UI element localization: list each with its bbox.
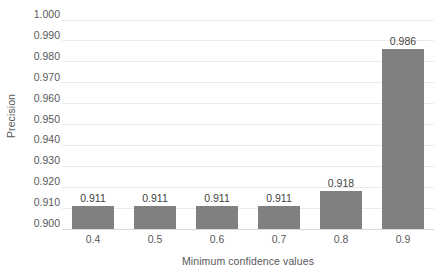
bar-value-label: 0.911 xyxy=(142,192,168,204)
y-axis-tick-label: 0.990 xyxy=(20,29,60,40)
y-axis-tick-label: 0.950 xyxy=(20,113,60,124)
bar[interactable]: 0.911 xyxy=(134,206,176,229)
bar-chart: Precision 1.0000.9900.9800.9700.9600.950… xyxy=(0,0,440,280)
y-axis-tick-label: 0.960 xyxy=(20,92,60,103)
bar-slot: 0.911 xyxy=(248,20,310,229)
y-axis-tick-label: 0.900 xyxy=(20,218,60,229)
x-axis-tick-label: 0.9 xyxy=(372,232,434,248)
y-axis-tick-label: 0.930 xyxy=(20,155,60,166)
y-axis-tick-label: 1.000 xyxy=(20,9,60,20)
bar[interactable]: 0.911 xyxy=(258,206,300,229)
axis-baseline xyxy=(62,229,434,230)
y-axis-tick-label: 0.910 xyxy=(20,197,60,208)
x-axis-tick-label: 0.8 xyxy=(310,232,372,248)
bar-slot: 0.918 xyxy=(310,20,372,229)
bar[interactable]: 0.911 xyxy=(72,206,114,229)
y-axis-title-label: Precision xyxy=(5,94,17,138)
y-axis-title: Precision xyxy=(0,0,22,232)
bar-value-label: 0.918 xyxy=(328,177,354,189)
y-axis-tick-label: 0.970 xyxy=(20,71,60,82)
bar-value-label: 0.911 xyxy=(204,192,230,204)
x-axis-title: Minimum confidence values xyxy=(62,255,434,267)
bar-slot: 0.986 xyxy=(372,20,434,229)
x-axis-tick-label: 0.7 xyxy=(248,232,310,248)
bar-value-label: 0.911 xyxy=(266,192,292,204)
bar[interactable]: 0.911 xyxy=(196,206,238,229)
bar-slot: 0.911 xyxy=(62,20,124,229)
bars-layer: 0.9110.9110.9110.9110.9180.986 xyxy=(62,20,434,229)
bar-slot: 0.911 xyxy=(186,20,248,229)
x-axis-tick-label: 0.4 xyxy=(62,232,124,248)
plot-area: 0.9110.9110.9110.9110.9180.986 xyxy=(62,20,434,229)
bar[interactable]: 0.986 xyxy=(382,49,424,229)
bar-slot: 0.911 xyxy=(124,20,186,229)
bar[interactable]: 0.918 xyxy=(320,191,362,229)
bar-value-label: 0.986 xyxy=(390,35,416,47)
y-axis-tick-label: 0.940 xyxy=(20,134,60,145)
y-axis-tick-label: 0.920 xyxy=(20,176,60,187)
bar-value-label: 0.911 xyxy=(80,192,106,204)
y-axis-tick-labels: 1.0000.9900.9800.9700.9600.9500.9400.930… xyxy=(20,14,60,228)
x-axis-tick-label: 0.5 xyxy=(124,232,186,248)
x-axis-tick-label: 0.6 xyxy=(186,232,248,248)
y-axis-tick-label: 0.980 xyxy=(20,50,60,61)
x-axis-tick-labels: 0.40.50.60.70.80.9 xyxy=(62,232,434,248)
